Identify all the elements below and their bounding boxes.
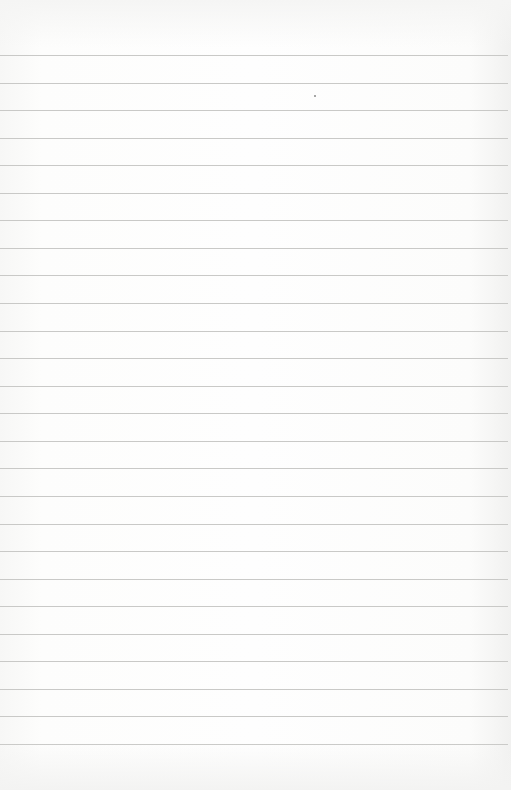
lined-paper-sheet: [0, 0, 511, 790]
ruled-line: [0, 634, 508, 635]
ruled-line: [0, 716, 508, 717]
ruled-line: [0, 689, 508, 690]
ruled-line: [0, 193, 508, 194]
ruled-line: [0, 661, 508, 662]
paper-speck: [314, 95, 316, 97]
ruled-line: [0, 386, 508, 387]
ruled-line: [0, 606, 508, 607]
ruled-line: [0, 275, 508, 276]
ruled-line: [0, 248, 508, 249]
ruled-line: [0, 496, 508, 497]
ruled-line: [0, 303, 508, 304]
ruled-line: [0, 551, 508, 552]
ruled-line: [0, 413, 508, 414]
ruled-line: [0, 441, 508, 442]
ruled-line: [0, 358, 508, 359]
ruled-line: [0, 331, 508, 332]
ruled-line: [0, 579, 508, 580]
ruled-line: [0, 55, 508, 56]
ruled-line: [0, 165, 508, 166]
ruled-line: [0, 83, 508, 84]
ruled-line: [0, 110, 508, 111]
ruled-line: [0, 138, 508, 139]
ruled-line: [0, 468, 508, 469]
ruled-line: [0, 220, 508, 221]
ruled-line: [0, 744, 508, 745]
ruled-line: [0, 524, 508, 525]
